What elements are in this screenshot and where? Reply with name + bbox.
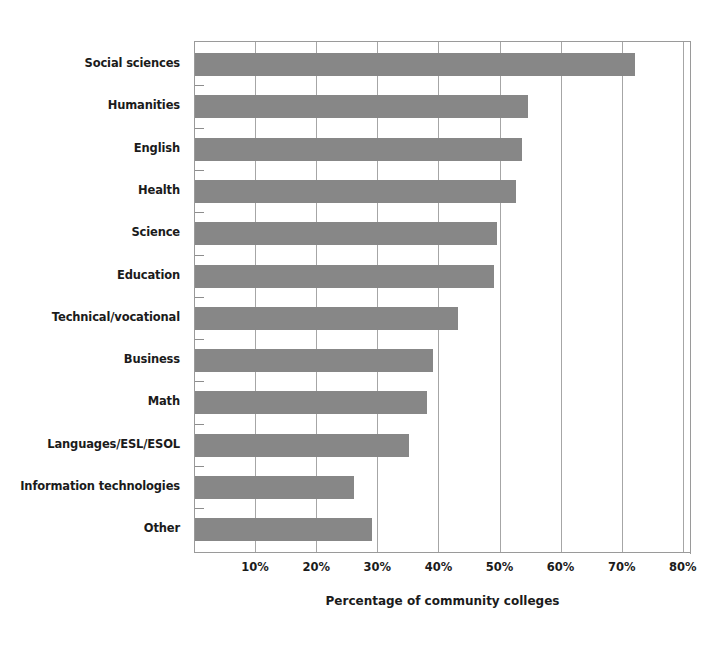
- bar-row: [195, 424, 691, 466]
- axis-minor-tick: [195, 339, 204, 340]
- x-tick-label: 40%: [408, 560, 468, 574]
- category-label: Health: [0, 184, 180, 196]
- bar-row: [195, 466, 691, 508]
- bar-row: [195, 255, 691, 297]
- horizontal-bar-chart: Social sciencesHumanitiesEnglishHealthSc…: [0, 0, 725, 651]
- bar: [195, 307, 458, 330]
- bar-row: [195, 43, 691, 85]
- category-label: Languages/ESL/ESOL: [0, 438, 180, 450]
- plot-right-border: [690, 41, 691, 554]
- bar: [195, 518, 372, 541]
- plot-area: [194, 41, 691, 553]
- category-label: Business: [0, 353, 180, 365]
- axis-minor-tick: [195, 170, 204, 171]
- category-label: Education: [0, 269, 180, 281]
- bar: [195, 180, 516, 203]
- axis-minor-tick: [195, 297, 204, 298]
- category-label: Science: [0, 226, 180, 238]
- bar: [195, 138, 522, 161]
- category-axis: Social sciencesHumanitiesEnglishHealthSc…: [0, 41, 188, 553]
- axis-minor-tick: [195, 381, 204, 382]
- x-tick-label: 10%: [225, 560, 285, 574]
- x-tick-label: 20%: [286, 560, 346, 574]
- bar: [195, 95, 528, 118]
- bar: [195, 391, 427, 414]
- x-tick-label: 70%: [592, 560, 652, 574]
- bar: [195, 222, 497, 245]
- x-axis-title: Percentage of community colleges: [194, 594, 691, 608]
- axis-minor-tick: [195, 508, 204, 509]
- axis-minor-tick: [195, 466, 204, 467]
- bar-row: [195, 508, 691, 550]
- x-tick-label: 50%: [470, 560, 530, 574]
- category-label: Humanities: [0, 99, 180, 111]
- category-label: Information technologies: [0, 480, 180, 492]
- category-label: Other: [0, 522, 180, 534]
- bar-row: [195, 297, 691, 339]
- category-label: English: [0, 142, 180, 154]
- category-label: Social sciences: [0, 57, 180, 69]
- axis-minor-tick: [195, 424, 204, 425]
- x-tick-label: 80%: [653, 560, 713, 574]
- bar: [195, 53, 635, 76]
- bar: [195, 434, 409, 457]
- x-tick-label: 30%: [347, 560, 407, 574]
- category-label: Technical/vocational: [0, 311, 180, 323]
- bar-row: [195, 170, 691, 212]
- axis-minor-tick: [195, 85, 204, 86]
- bar-row: [195, 339, 691, 381]
- x-tick-label: 60%: [531, 560, 591, 574]
- category-label: Math: [0, 395, 180, 407]
- bar-row: [195, 85, 691, 127]
- bar: [195, 349, 433, 372]
- bar-row: [195, 212, 691, 254]
- axis-minor-tick: [195, 255, 204, 256]
- x-axis-tick-labels: 10%20%30%40%50%60%70%80%: [0, 560, 725, 580]
- bar: [195, 476, 354, 499]
- bar-row: [195, 381, 691, 423]
- bar-row: [195, 128, 691, 170]
- bar: [195, 265, 494, 288]
- axis-minor-tick: [195, 128, 204, 129]
- axis-minor-tick: [195, 212, 204, 213]
